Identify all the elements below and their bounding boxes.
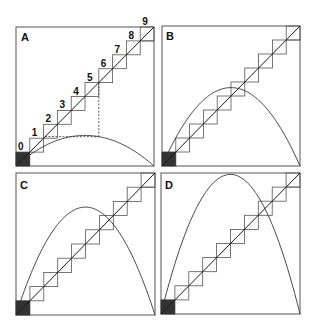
panel-label-b: B <box>166 30 174 42</box>
step-label: 6 <box>101 58 107 69</box>
panel-label-c: C <box>20 179 28 191</box>
step-label: 4 <box>73 86 79 97</box>
panel-label-a: A <box>21 31 29 43</box>
step-label: 9 <box>142 16 148 27</box>
step-label: 1 <box>32 127 38 138</box>
step-label: 3 <box>59 99 65 110</box>
step-label: 5 <box>87 72 93 83</box>
panel-a: A 0123456789 <box>16 16 154 166</box>
step-label: 0 <box>18 141 24 152</box>
panel-d: D <box>161 173 300 314</box>
staircase-figure: A 0123456789 B C D <box>0 0 315 328</box>
step-label: 7 <box>115 44 121 55</box>
panel-c: C <box>16 173 155 315</box>
step-label: 8 <box>128 30 134 41</box>
panel-label-d: D <box>165 179 173 191</box>
panel-b: B <box>162 26 300 166</box>
step-label: 2 <box>46 113 52 124</box>
